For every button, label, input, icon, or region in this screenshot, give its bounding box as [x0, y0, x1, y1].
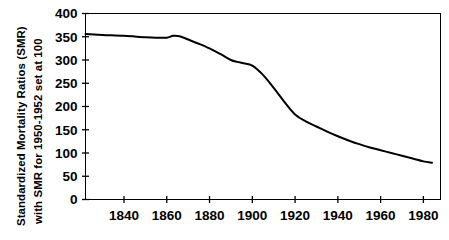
y-tick-label: 400 — [55, 6, 78, 21]
x-tick-label: 1860 — [152, 208, 182, 223]
y-tick-label: 250 — [55, 76, 78, 91]
y-tick-label: 150 — [55, 123, 78, 138]
y-tick-label: 200 — [55, 99, 78, 114]
x-tick-label: 1880 — [195, 208, 225, 223]
x-tick-label: 1960 — [366, 208, 396, 223]
plot-frame — [86, 14, 441, 200]
y-tick-label: 300 — [55, 53, 78, 68]
y-tick-label: 0 — [70, 192, 78, 207]
series-line — [86, 34, 432, 163]
y-tick-label: 50 — [62, 169, 77, 184]
x-tick-label: 1980 — [408, 208, 438, 223]
line-chart-plot: 050100150200250300350400 184018601880190… — [0, 0, 449, 240]
y-tick-label: 350 — [55, 30, 78, 45]
x-tick-label: 1940 — [323, 208, 353, 223]
x-tick-label-group: 18401860188019001920194019601980 — [109, 208, 438, 223]
chart-screenshot: Standardized Mortality Ratios (SMR) with… — [0, 0, 449, 240]
x-tick-label: 1840 — [109, 208, 139, 223]
x-tick-label: 1920 — [280, 208, 310, 223]
y-tick-label: 100 — [55, 146, 78, 161]
data-series-group — [86, 34, 432, 163]
y-tick-label-group: 050100150200250300350400 — [55, 6, 78, 207]
x-tick-label: 1900 — [237, 208, 267, 223]
